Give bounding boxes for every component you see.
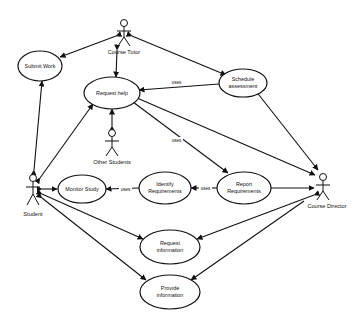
use-case-label: Report [236, 181, 253, 187]
use-case-provide-information[interactable]: Provide information [140, 275, 200, 309]
use-case-label: Request help [96, 90, 128, 96]
use-case-label: Requirements [148, 188, 182, 194]
edge-student-provide-info [42, 198, 146, 280]
use-case-request-help[interactable]: Request help [84, 77, 140, 109]
actor-label: Other Students [93, 159, 131, 165]
use-case-label: information [157, 292, 184, 298]
edge-student-submit-work [34, 81, 42, 170]
stick-figure-icon [316, 174, 330, 201]
use-case-identify-requirements[interactable]: Identify Requirements [139, 172, 191, 204]
use-case-label: Provide [161, 285, 179, 291]
actor-other-students[interactable]: Other Students [93, 130, 131, 166]
actor-label: Student [23, 211, 43, 217]
actor-course-director[interactable]: Course Director [307, 174, 346, 210]
use-case-request-information[interactable]: Request information [140, 230, 200, 264]
uses-label: uses [201, 186, 211, 191]
edge-request-help-director [137, 98, 315, 175]
stick-figure-icon [117, 20, 131, 47]
use-case-submit-work[interactable]: Submit Work [18, 51, 62, 81]
use-case-label: information [157, 247, 184, 253]
use-case-monitor-study[interactable]: Monitor Study [58, 175, 106, 203]
use-case-label: assessment [229, 83, 258, 89]
edge-schedule-director [259, 95, 318, 170]
edge-student-request-help [40, 104, 93, 178]
use-case-label: Request [160, 240, 181, 246]
edge-director-provide-info [191, 201, 304, 280]
actor-student[interactable]: Student [23, 175, 43, 218]
uses-label: uses [121, 187, 131, 192]
uses-label: uses [172, 138, 182, 143]
use-case-report-requirements[interactable]: Report Requirements [217, 172, 271, 204]
actor-label: Course Director [307, 203, 346, 209]
use-case-diagram: uses uses uses uses Submit Work Request … [0, 0, 360, 326]
use-case-label: Submit Work [25, 63, 56, 69]
stick-figure-icon [26, 175, 40, 206]
use-case-label: Requirements [227, 188, 261, 194]
use-case-label: Identify [156, 181, 174, 187]
stick-figure-icon [105, 130, 119, 157]
actor-label: Course Tutor [108, 49, 140, 55]
use-case-schedule-assessment[interactable]: Schedule assessment [219, 69, 267, 97]
use-case-label: Monitor Study [65, 186, 99, 192]
edge-tutor-schedule [132, 36, 226, 75]
uses-label: uses [172, 80, 182, 85]
use-case-label: Schedule [232, 76, 254, 82]
